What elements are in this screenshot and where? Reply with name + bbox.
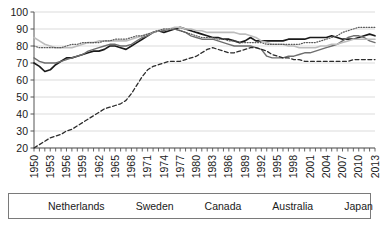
svg-text:60: 60 <box>16 74 28 86</box>
legend-label-sweden: Sweden <box>136 200 174 212</box>
gridlines <box>34 12 375 148</box>
svg-text:100: 100 <box>10 6 28 18</box>
legend-label-netherlands: Netherlands <box>48 200 105 212</box>
svg-text:1959: 1959 <box>76 155 88 179</box>
chart-svg: 2030405060708090100 19501953195619591962… <box>0 0 381 188</box>
svg-text:1953: 1953 <box>44 155 56 179</box>
svg-text:1974: 1974 <box>158 155 170 179</box>
svg-text:1986: 1986 <box>222 155 234 179</box>
svg-text:2004: 2004 <box>320 155 332 179</box>
plot-area: 2030405060708090100 19501953195619591962… <box>0 0 381 188</box>
legend-item-sweden: Sweden <box>105 200 174 212</box>
x-axis-labels: 1950195319561959196219651968197119741977… <box>28 155 381 179</box>
line-chart: 2030405060708090100 19501953195619591962… <box>0 0 381 228</box>
svg-text:1980: 1980 <box>190 155 202 179</box>
svg-text:2007: 2007 <box>336 155 348 179</box>
svg-text:2010: 2010 <box>352 155 364 179</box>
svg-text:50: 50 <box>16 91 28 103</box>
svg-text:20: 20 <box>16 142 28 154</box>
svg-text:1995: 1995 <box>271 155 283 179</box>
svg-text:1962: 1962 <box>93 155 105 179</box>
svg-text:30: 30 <box>16 125 28 137</box>
y-axis-ticks: 2030405060708090100 <box>10 6 34 154</box>
svg-text:80: 80 <box>16 40 28 52</box>
x-axis-ticks <box>34 148 375 152</box>
legend-label-australia: Australia <box>272 200 313 212</box>
svg-text:1983: 1983 <box>206 155 218 179</box>
svg-text:1971: 1971 <box>141 155 153 179</box>
svg-text:1992: 1992 <box>255 155 267 179</box>
svg-text:1950: 1950 <box>28 155 40 179</box>
svg-text:2013: 2013 <box>369 155 381 179</box>
svg-text:1977: 1977 <box>174 155 186 179</box>
data-series-group <box>34 27 375 148</box>
legend-item-japan: Japan <box>313 200 373 212</box>
svg-text:90: 90 <box>16 23 28 35</box>
svg-text:1968: 1968 <box>125 155 137 179</box>
legend-item-canada: Canada <box>174 200 242 212</box>
legend-label-canada: Canada <box>205 200 242 212</box>
legend-item-netherlands: Netherlands <box>17 200 105 212</box>
legend-item-australia: Australia <box>241 200 313 212</box>
svg-text:1998: 1998 <box>287 155 299 179</box>
svg-text:1965: 1965 <box>109 155 121 179</box>
legend-label-japan: Japan <box>344 200 373 212</box>
svg-text:70: 70 <box>16 57 28 69</box>
svg-text:1989: 1989 <box>239 155 251 179</box>
svg-text:2001: 2001 <box>304 155 316 179</box>
svg-text:1956: 1956 <box>60 155 72 179</box>
series-line-netherlands <box>34 27 375 71</box>
svg-text:40: 40 <box>16 108 28 120</box>
chart-legend: Netherlands Sweden Canada Australia Japa… <box>8 193 371 219</box>
